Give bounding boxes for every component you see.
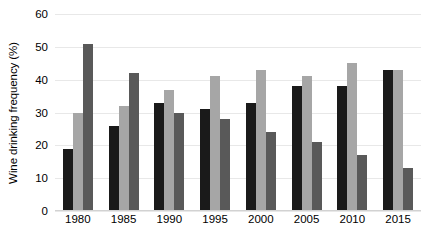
x-axis-tick-labels: 19801985199019952000200520102015 xyxy=(55,213,421,233)
bar xyxy=(109,126,119,211)
bar xyxy=(129,73,139,211)
x-tick-label: 2005 xyxy=(294,213,320,225)
bar xyxy=(83,44,93,211)
bar xyxy=(256,70,266,211)
bar xyxy=(357,155,367,211)
bar xyxy=(210,76,220,211)
x-tick-label: 1980 xyxy=(65,213,91,225)
bar-group xyxy=(383,14,413,211)
bar xyxy=(312,142,322,211)
bar xyxy=(246,103,256,211)
x-tick-label: 1995 xyxy=(202,213,228,225)
wine-drinking-frequency-bar-chart: Wine drinking frequency (%) 010203040506… xyxy=(0,0,425,249)
plot-area xyxy=(55,14,421,211)
bar-group xyxy=(63,14,93,211)
y-tick-label: 10 xyxy=(35,172,48,184)
bar-group xyxy=(200,14,230,211)
bar-group xyxy=(292,14,322,211)
y-axis-tick-labels: 0102030405060 xyxy=(26,0,52,225)
y-tick-label: 0 xyxy=(42,205,48,217)
bar xyxy=(63,149,73,211)
bar xyxy=(383,70,393,211)
bars-layer xyxy=(55,14,421,211)
y-tick-label: 40 xyxy=(35,74,48,86)
bar xyxy=(174,113,184,212)
y-tick-label: 20 xyxy=(35,139,48,151)
bar xyxy=(200,109,210,211)
bar xyxy=(347,63,357,211)
bar xyxy=(266,132,276,211)
bar xyxy=(393,70,403,211)
bar xyxy=(164,90,174,211)
bar-group xyxy=(109,14,139,211)
bar xyxy=(154,103,164,211)
bar xyxy=(337,86,347,211)
bar-group xyxy=(154,14,184,211)
bar xyxy=(220,119,230,211)
x-tick-label: 2010 xyxy=(340,213,366,225)
x-tick-label: 2015 xyxy=(385,213,411,225)
bar-group xyxy=(246,14,276,211)
x-tick-label: 1985 xyxy=(111,213,137,225)
x-tick-label: 1990 xyxy=(157,213,183,225)
bar xyxy=(292,86,302,211)
bar-group xyxy=(337,14,367,211)
gridline xyxy=(55,211,421,212)
y-axis-title: Wine drinking frequency (%) xyxy=(0,0,26,225)
bar xyxy=(119,106,129,211)
bar xyxy=(302,76,312,211)
y-axis-title-text: Wine drinking frequency (%) xyxy=(7,42,19,184)
x-axis-line xyxy=(55,210,421,211)
bar xyxy=(73,113,83,212)
x-tick-label: 2000 xyxy=(248,213,274,225)
y-tick-label: 50 xyxy=(35,41,48,53)
y-tick-label: 60 xyxy=(35,8,48,20)
bar xyxy=(403,168,413,211)
y-tick-label: 30 xyxy=(35,107,48,119)
